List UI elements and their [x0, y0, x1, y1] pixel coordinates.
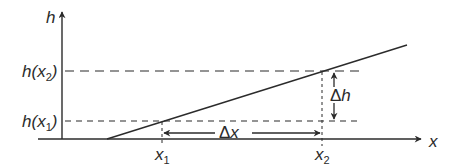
level-label-h-x1: h(x1)	[22, 112, 57, 133]
x-axis-label: x	[428, 132, 438, 151]
delta-x-label: Δx	[219, 123, 239, 142]
function-line	[107, 45, 407, 139]
y-axis-label: h	[46, 8, 55, 27]
level-label-h-x2: h(x2)	[22, 62, 57, 83]
tick-label-x2: x2	[314, 145, 330, 166]
tick-label-x1: x1	[154, 145, 170, 166]
slope-diagram: h x h(x2) h(x1) x1 x2 Δx Δh	[0, 0, 457, 167]
delta-h-label: Δh	[330, 86, 351, 105]
